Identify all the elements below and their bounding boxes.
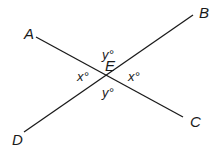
point-label-b: B: [199, 4, 209, 21]
point-label-a: A: [23, 25, 34, 42]
angle-label-right: x°: [127, 69, 140, 84]
point-label-c: C: [190, 113, 201, 130]
intersecting-lines-diagram: A B C D E y° x° x° y°: [0, 0, 219, 153]
angle-label-left: x°: [76, 69, 89, 84]
point-label-d: D: [12, 131, 23, 148]
angle-label-bottom: y°: [101, 85, 114, 100]
angle-label-top: y°: [101, 47, 114, 62]
